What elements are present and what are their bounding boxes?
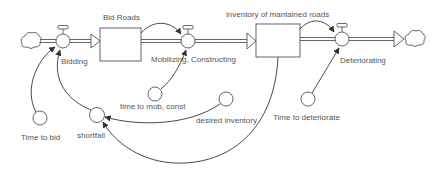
desired-inventory-aux[interactable] (219, 92, 233, 106)
link-time-to-bid-to-bidding (31, 47, 55, 112)
source-cloud-icon (21, 32, 41, 48)
deteriorating-valve-icon[interactable] (335, 24, 349, 47)
link-bidroads-to-mobilizing (141, 23, 181, 34)
sink-cloud-icon (405, 30, 425, 46)
mobilizing-valve-icon[interactable] (181, 26, 195, 49)
deteriorating-label: Deteriorating (340, 57, 386, 65)
bidding-label: Bidding (61, 58, 88, 66)
time-to-mob-label: time to mob, const (120, 103, 185, 111)
shortfall-label: shortfall (77, 132, 105, 140)
time-to-bid-aux[interactable] (33, 111, 47, 125)
mobilizing-label: Mobilizing, Constructing (151, 56, 236, 64)
bidding-valve-icon[interactable] (56, 26, 70, 49)
mobilizing-flow-pipe[interactable] (141, 33, 256, 49)
desired-inventory-label: desired inventory (196, 117, 257, 125)
bid-roads-stock[interactable] (100, 28, 141, 61)
time-to-mob-aux[interactable] (148, 87, 162, 101)
bid-roads-label: Bid Roads (103, 14, 140, 22)
inventory-label: inventory of mantained roads (226, 11, 329, 19)
stock-flow-diagram (0, 0, 445, 173)
inventory-stock[interactable] (256, 24, 300, 57)
time-to-deteriorate-aux[interactable] (301, 92, 315, 106)
shortfall-aux[interactable] (90, 108, 105, 123)
link-inventory-to-deteriorating (300, 21, 334, 32)
time-to-deteriorate-label: Time to deteriorate (273, 114, 340, 122)
deteriorating-flow-pipe[interactable] (300, 31, 404, 47)
time-to-bid-label: Time to bid (21, 134, 60, 142)
link-timetodeteriorate-to-deteriorating (312, 48, 339, 93)
